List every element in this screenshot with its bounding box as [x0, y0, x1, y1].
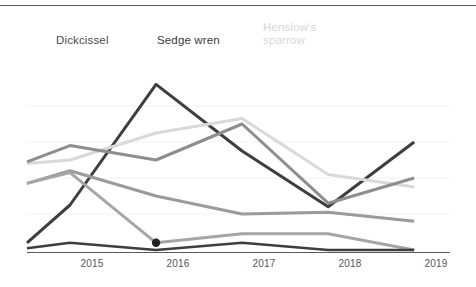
series-paths-group [27, 84, 414, 250]
series-line-1 [27, 84, 414, 242]
series-line-6 [27, 243, 414, 250]
chart-figure: Dickcissel Sedge wren Henslow's sparrow … [0, 0, 476, 287]
x-axis-tick-2015: 2015 [72, 258, 112, 269]
line-chart-plot [0, 0, 476, 287]
x-axis-tick-2018: 2018 [330, 258, 370, 269]
gridlines-group [27, 106, 450, 214]
x-axis-tick-2016: 2016 [158, 258, 198, 269]
data-point-marker [152, 239, 160, 247]
x-axis-tick-2019: 2019 [416, 258, 456, 269]
series-markers-group [152, 239, 160, 247]
x-axis-tick-2017: 2017 [244, 258, 284, 269]
